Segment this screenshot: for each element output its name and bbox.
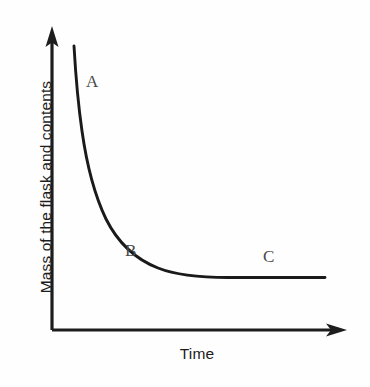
decay-curve: [74, 46, 325, 278]
curve-annotation-a: A: [86, 72, 98, 92]
x-axis-title: Time: [52, 345, 342, 363]
chart-figure: Mass of the flask and contents Time A B …: [0, 0, 370, 387]
curve-annotation-b: B: [125, 241, 136, 261]
curve-annotation-c: C: [263, 247, 274, 267]
chart-plot-area: [0, 0, 370, 387]
y-axis-title: Mass of the flask and contents: [37, 57, 55, 317]
